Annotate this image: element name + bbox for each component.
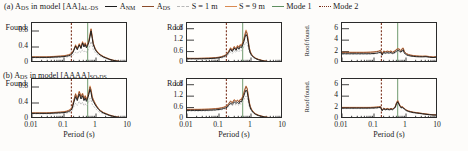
caption-a-sub1: DS [21,6,29,12]
ytick-b3-4: 4 [318,90,338,99]
panel-inner-label-a1: Found. [6,23,28,32]
ytick-b1-0_4: 0.4 [8,97,28,106]
plot-area-b2[interactable] [186,78,282,118]
series-s---1-m-b1 [32,98,127,118]
series-s---9-m-a2 [187,30,282,62]
caption-a-sub2: AL-DS [81,6,99,12]
legend-swatch-s-9m [225,6,237,7]
ytick-a2-0_6: 0.6 [163,46,183,55]
legend-item-s-9m: S = 9 m [225,2,265,11]
legend-label-mode-1: Mode 1 [286,2,311,11]
ytick-a3-4: 4 [318,34,338,43]
plot-area-a3[interactable] [341,22,437,62]
xtick-b1-0_1: 0.1 [51,120,75,129]
legend-swatch-a-nm [105,6,117,7]
xtick-b2-0_1: 0.1 [206,120,230,129]
x-axis-label-b1: Period (s) [31,130,127,139]
legend-swatch-mode-1 [272,6,284,7]
plot-area-b3[interactable] [341,78,437,118]
xtick-b1-0_01: 0.01 [19,120,43,129]
ytick-a1-0_4: 0.4 [8,41,28,50]
y-ticks-a3 [342,29,349,52]
legend-label-a-nm: ANM [120,2,135,11]
xtick-b3-0_1: 0.1 [361,120,385,129]
xtick-b2-0_01: 0.01 [174,120,198,129]
legend-item-s-1m: S = 1 m [177,2,217,11]
xtick-b1-1: 1 [83,120,107,129]
x-minor-ticks-a3 [342,58,437,63]
xtick-b3-1: 1 [393,120,417,129]
y-ticks-a2 [187,29,194,52]
legend-item-mode-2: Mode 2 [319,2,359,11]
caption-a-inline: (a) ADS in model [AA]AL-DS [0,2,98,11]
panel-inner-label-b1: Found. [6,79,28,88]
x-axis-label-b2: Period (s) [186,130,282,139]
x-minor-ticks-b2 [187,114,282,119]
ytick-a1-0: 0 [8,57,28,66]
xtick-b3-10: 10 [425,120,449,129]
y-ticks-b1 [32,87,39,103]
xtick-b1-10: 10 [115,120,139,129]
ytick-b3-2: 2 [318,102,338,111]
legend-items: ANMADSS = 1 mS = 9 mMode 1Mode 2 [98,2,358,11]
xtick-b2-10: 10 [270,120,294,129]
ytick-a3-6: 6 [318,23,338,32]
x-axis-label-b3: Period (s) [341,130,437,139]
figure-root: (a) ADS in model [AA]AL-DS ANMADSS = 1 m… [0,0,468,151]
caption-a-mid: in model [AA] [29,2,81,11]
legend-label-s-9m: S = 9 m [239,2,265,11]
series-a-nm-b2 [187,90,282,118]
legend-label-s-1m: S = 1 m [192,2,218,11]
legend-item-a-nm: ANM [105,2,135,11]
legend-label-a-ds: ADS [157,2,170,11]
y-axis-label-a3: Roof/found. [303,18,310,64]
ytick-a2-1_2: 1.2 [163,34,183,43]
legend-swatch-a-ds [142,6,154,7]
panel-inner-label-b2: Roof [167,79,183,88]
legend-item-a-ds: ADS [142,2,170,11]
ytick-a3-0: 0 [318,57,338,66]
legend-label-mode-2: Mode 2 [333,2,358,11]
ytick-b2-0_6: 0.6 [163,102,183,111]
plot-area-b1[interactable] [31,78,127,118]
plot-area-a1[interactable] [31,22,127,62]
legend-swatch-mode-2 [319,6,331,7]
ytick-a2-0: 0 [163,57,183,66]
y-ticks-b3 [342,85,349,108]
panel-inner-label-a2: Roof [167,23,183,32]
caption-a-prefix: (a) A [4,2,21,11]
y-axis-label-b3: Roof/found. [303,74,310,120]
ytick-b2-1_2: 1.2 [163,90,183,99]
legend-row: (a) ADS in model [AA]AL-DS ANMADSS = 1 m… [0,0,468,14]
series-a-ds-a2 [187,31,282,62]
ytick-a3-2: 2 [318,46,338,55]
y-ticks-a1 [32,31,39,47]
legend-item-mode-1: Mode 1 [272,2,312,11]
xtick-b3-0_01: 0.01 [329,120,353,129]
ytick-b3-6: 6 [318,79,338,88]
y-ticks-b2 [187,85,194,108]
plot-area-a2[interactable] [186,22,282,62]
xtick-b2-1: 1 [238,120,262,129]
legend-swatch-s-1m [177,6,189,7]
series-a-nm-a1 [32,31,127,62]
